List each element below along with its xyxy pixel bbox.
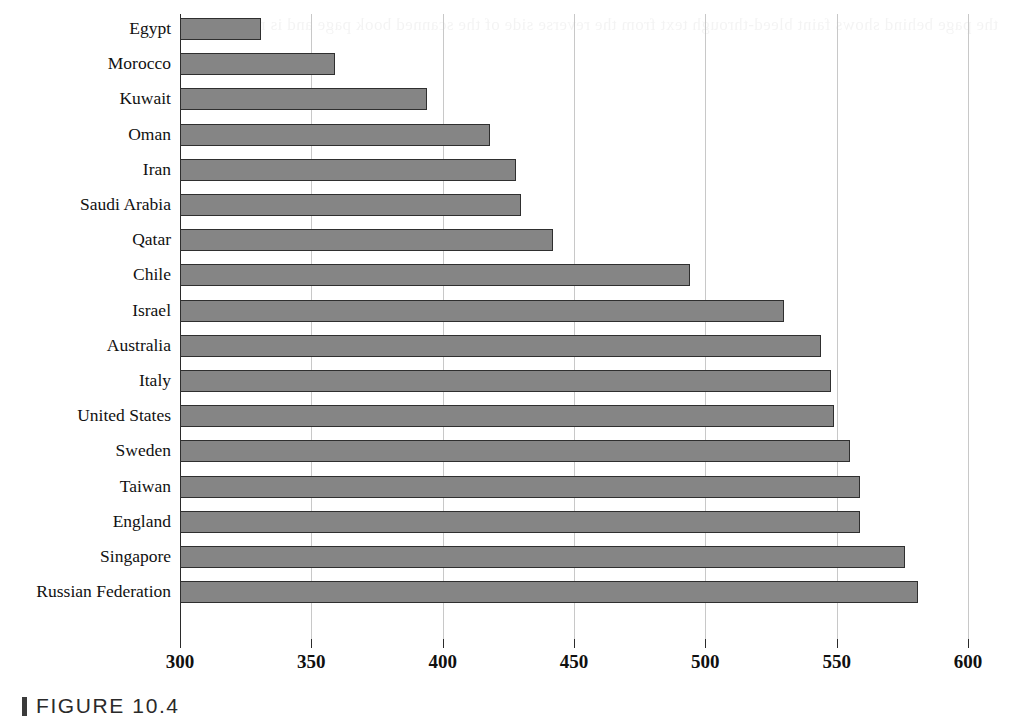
x-tick-350 [311, 639, 312, 648]
bar-row: Oman [180, 124, 968, 146]
bar [180, 88, 427, 110]
bar-row: Singapore [180, 546, 968, 568]
bar-row: Egypt [180, 18, 968, 40]
figure-caption: FIGURE 10.4 [22, 694, 180, 718]
category-label: United States [77, 407, 171, 425]
bar [180, 405, 834, 427]
bar [180, 476, 860, 498]
bar-row: Sweden [180, 440, 968, 462]
category-label: Italy [139, 372, 171, 390]
plot-area: EgyptMoroccoKuwaitOmanIranSaudi ArabiaQa… [180, 14, 968, 639]
bar [180, 159, 516, 181]
bar-row: Chile [180, 264, 968, 286]
category-label: Morocco [108, 55, 171, 73]
x-tick-label: 400 [428, 651, 457, 673]
x-tick-550 [837, 639, 838, 648]
bar [180, 546, 905, 568]
category-label: Singapore [100, 548, 171, 566]
x-tick-label: 600 [954, 651, 983, 673]
bar-row: Russian Federation [180, 581, 968, 603]
category-label: Israel [132, 302, 171, 320]
bar [180, 370, 831, 392]
category-label: Russian Federation [36, 583, 171, 601]
bar-row: Australia [180, 335, 968, 357]
bar-row: Qatar [180, 229, 968, 251]
caption-label: FIGURE 10.4 [36, 694, 180, 718]
bar [180, 194, 521, 216]
x-tick-label: 450 [560, 651, 589, 673]
x-tick-450 [574, 639, 575, 648]
category-label: Saudi Arabia [80, 196, 171, 214]
category-label: England [113, 513, 171, 531]
x-tick-500 [705, 639, 706, 648]
bar-row: Kuwait [180, 88, 968, 110]
x-tick-label: 350 [297, 651, 326, 673]
bar [180, 18, 261, 40]
category-label: Kuwait [119, 91, 171, 109]
bar [180, 53, 335, 75]
x-axis-ticks [180, 639, 968, 648]
bar [180, 581, 918, 603]
bar [180, 300, 784, 322]
category-label: Taiwan [120, 478, 171, 496]
bar-row: Saudi Arabia [180, 194, 968, 216]
x-tick-600 [968, 639, 969, 648]
bar [180, 229, 553, 251]
caption-marker-icon [22, 697, 27, 716]
category-label: Sweden [116, 443, 171, 461]
bar [180, 335, 821, 357]
gridline-600 [968, 14, 969, 639]
x-tick-label: 500 [691, 651, 720, 673]
category-label: Egypt [129, 20, 171, 38]
bar [180, 440, 850, 462]
category-label: Chile [133, 267, 171, 285]
x-tick-300 [180, 639, 181, 648]
category-label: Australia [107, 337, 171, 355]
bar-row: Morocco [180, 53, 968, 75]
bar-row: Israel [180, 300, 968, 322]
bar [180, 264, 690, 286]
bar-row: Italy [180, 370, 968, 392]
category-label: Oman [128, 126, 171, 144]
bar-row: Taiwan [180, 476, 968, 498]
bar-row: Iran [180, 159, 968, 181]
x-tick-400 [443, 639, 444, 648]
category-label: Iran [143, 161, 171, 179]
category-label: Qatar [132, 231, 171, 249]
x-tick-label: 550 [822, 651, 851, 673]
bar-row: United States [180, 405, 968, 427]
bar [180, 124, 490, 146]
bar-row: England [180, 511, 968, 533]
x-tick-label: 300 [166, 651, 195, 673]
bar [180, 511, 860, 533]
